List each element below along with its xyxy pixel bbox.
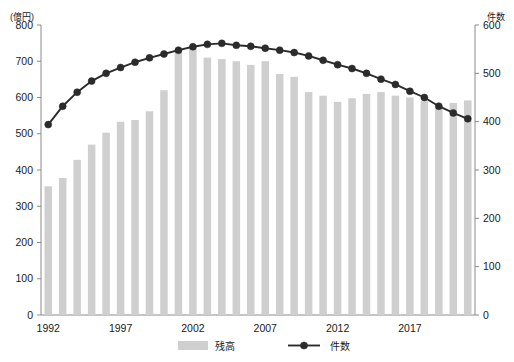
legend-label-balance: 残高: [215, 340, 235, 352]
x-tick-label: 1992: [37, 322, 61, 334]
data-point-marker: [320, 57, 327, 64]
data-point-marker: [349, 65, 356, 72]
data-point-marker: [189, 43, 196, 50]
data-point-marker: [160, 51, 167, 58]
bar: [421, 101, 429, 315]
bar: [334, 102, 342, 315]
data-point-marker: [305, 52, 312, 59]
bar: [261, 61, 269, 315]
right-tick-label: 500: [483, 67, 501, 79]
data-point-marker: [392, 81, 399, 88]
data-point-marker: [88, 78, 95, 85]
x-tick-label: 2012: [326, 322, 350, 334]
right-tick-label: 200: [483, 212, 501, 224]
right-tick-label: 600: [483, 19, 501, 31]
bar: [160, 90, 168, 315]
chart-container: (億円) 件数 0100200300400500600700800 010020…: [0, 0, 514, 362]
right-tick-label: 100: [483, 260, 501, 272]
data-point-marker: [45, 121, 52, 128]
left-tick-label: 500: [15, 127, 33, 139]
bar: [450, 103, 458, 315]
bar: [233, 61, 241, 315]
bar: [218, 59, 226, 315]
left-tick-label: 700: [15, 55, 33, 67]
bar: [175, 49, 183, 315]
data-point-marker: [146, 54, 153, 61]
data-point-marker: [59, 103, 66, 110]
bar: [290, 77, 298, 315]
chart-svg: (億円) 件数 0100200300400500600700800 010020…: [0, 0, 514, 362]
x-tick-label: 1997: [109, 322, 133, 334]
data-point-marker: [117, 64, 124, 71]
data-point-marker: [464, 115, 471, 122]
data-point-marker: [218, 40, 225, 47]
bar: [276, 74, 284, 315]
bar: [305, 92, 313, 315]
bar: [406, 98, 414, 316]
x-axis-ticks: 199219972002200720122017: [37, 322, 422, 334]
cases-line: [48, 43, 468, 124]
bar: [363, 94, 371, 315]
legend-swatch-balance: [178, 341, 208, 350]
data-point-marker: [247, 43, 254, 50]
bar: [88, 145, 96, 315]
right-tick-label: 300: [483, 164, 501, 176]
data-point-marker: [450, 109, 457, 116]
x-tick-label: 2007: [254, 322, 278, 334]
bar: [189, 46, 197, 315]
bar: [348, 98, 356, 315]
bar: [435, 108, 443, 315]
data-point-marker: [103, 70, 110, 77]
bar: [464, 100, 472, 315]
data-point-marker: [132, 59, 139, 66]
data-point-marker: [175, 47, 182, 54]
legend: 残高 件数: [178, 340, 350, 352]
bar: [377, 92, 385, 315]
data-point-marker: [291, 49, 298, 56]
left-tick-label: 800: [15, 19, 33, 31]
x-tick-label: 2002: [181, 322, 205, 334]
data-point-marker: [74, 89, 81, 96]
data-point-marker: [406, 88, 413, 95]
left-tick-label: 400: [15, 164, 33, 176]
legend-dot-cases: [300, 342, 307, 349]
data-point-marker: [262, 45, 269, 52]
left-axis-ticks: 0100200300400500600700800: [15, 19, 41, 321]
x-tick-label: 2017: [398, 322, 422, 334]
bar: [102, 133, 110, 315]
right-tick-label: 0: [483, 309, 489, 321]
right-tick-label: 400: [483, 115, 501, 127]
data-point-marker: [435, 103, 442, 110]
bar: [131, 120, 139, 315]
data-point-marker: [276, 47, 283, 54]
data-point-marker: [377, 76, 384, 83]
left-tick-label: 100: [15, 272, 33, 284]
data-point-marker: [363, 70, 370, 77]
bar: [204, 58, 212, 315]
bar: [319, 96, 327, 315]
bar: [247, 65, 255, 315]
data-point-marker: [334, 61, 341, 68]
data-point-marker: [233, 42, 240, 49]
left-tick-label: 300: [15, 200, 33, 212]
legend-label-cases: 件数: [330, 340, 350, 352]
left-tick-label: 600: [15, 91, 33, 103]
data-point-marker: [421, 94, 428, 101]
left-tick-label: 200: [15, 236, 33, 248]
bar: [44, 186, 52, 315]
data-point-marker: [204, 41, 211, 48]
bar: [59, 178, 67, 315]
bar: [117, 122, 125, 315]
left-tick-label: 0: [27, 309, 33, 321]
right-axis-ticks: 0100200300400500600: [475, 19, 501, 321]
bar-series-balance: [44, 46, 471, 315]
bar: [73, 160, 81, 315]
bar: [392, 96, 400, 315]
bar: [146, 111, 154, 315]
